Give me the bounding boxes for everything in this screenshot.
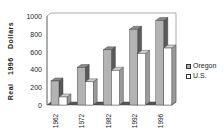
bar-oregon-1972 bbox=[77, 68, 85, 105]
bar-us-1992 bbox=[138, 53, 146, 105]
legend-item-us: U.S. bbox=[186, 71, 216, 81]
bar-oregon-1982 bbox=[103, 50, 111, 105]
bar-us-1996 bbox=[164, 48, 172, 105]
legend-swatch-us bbox=[186, 74, 191, 79]
bar-side bbox=[93, 79, 97, 105]
bar-oregon-1962 bbox=[51, 81, 59, 105]
bar-side bbox=[119, 67, 123, 105]
x-tick: 1972 bbox=[76, 110, 86, 132]
bar-us-1982 bbox=[111, 70, 119, 105]
bar-us-1962 bbox=[59, 97, 67, 105]
legend: Oregon U.S. bbox=[186, 61, 216, 81]
bar-side bbox=[172, 45, 176, 105]
legend-swatch-oregon bbox=[186, 64, 191, 69]
legend-item-oregon: Oregon bbox=[186, 61, 216, 71]
x-tick: 1962 bbox=[50, 110, 60, 132]
x-tick: 1996 bbox=[155, 110, 165, 132]
bar-oregon-1992 bbox=[130, 29, 138, 105]
x-tick: 1982 bbox=[103, 110, 113, 132]
bar-side bbox=[146, 50, 150, 105]
bar-oregon-1996 bbox=[156, 20, 164, 105]
bar-us-1972 bbox=[85, 82, 93, 105]
x-tick: 1992 bbox=[129, 110, 139, 132]
